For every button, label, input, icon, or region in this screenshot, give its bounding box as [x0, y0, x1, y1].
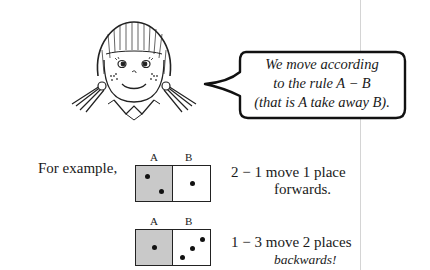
speech-bubble-text: We move according to the rule A − B (tha… — [242, 55, 402, 112]
example-1-description: 2 − 1 move 1 place forwards. — [231, 164, 346, 198]
bubble-line-3: (that is A take away B). — [242, 93, 402, 112]
domino-1 — [135, 165, 211, 202]
domino-1-label-a: A — [150, 151, 158, 163]
girl-illustration — [68, 14, 200, 122]
example-1-line-2: forwards. — [231, 181, 346, 198]
domino-2-label-a: A — [150, 215, 158, 227]
pip — [180, 255, 185, 260]
domino-2-label-b: B — [185, 215, 192, 227]
domino-1-label-b: B — [185, 151, 192, 163]
intro-label: For example, — [38, 160, 117, 177]
domino-2-half-b — [173, 230, 210, 265]
pip — [190, 246, 195, 251]
domino-1-half-b — [173, 166, 210, 201]
right-pigtail — [164, 86, 196, 112]
pip — [145, 174, 150, 179]
pip — [152, 245, 157, 250]
example-2-description: 1 − 3 move 2 places backwards! — [231, 234, 352, 268]
domino-2 — [135, 229, 211, 266]
domino-2-half-a — [136, 230, 173, 265]
pip — [200, 237, 205, 242]
domino-1-half-a — [136, 166, 173, 201]
page-gutter-line — [360, 0, 361, 270]
pip — [159, 189, 164, 194]
example-1-line-1: 2 − 1 move 1 place — [231, 164, 346, 180]
bubble-line-2: to the rule A − B — [242, 74, 402, 93]
example-2-line-2: backwards! — [231, 251, 352, 268]
bubble-line-1: We move according — [242, 55, 402, 74]
example-2-line-1: 1 − 3 move 2 places — [231, 234, 352, 250]
left-pigtail — [72, 86, 104, 112]
pip — [190, 181, 195, 186]
